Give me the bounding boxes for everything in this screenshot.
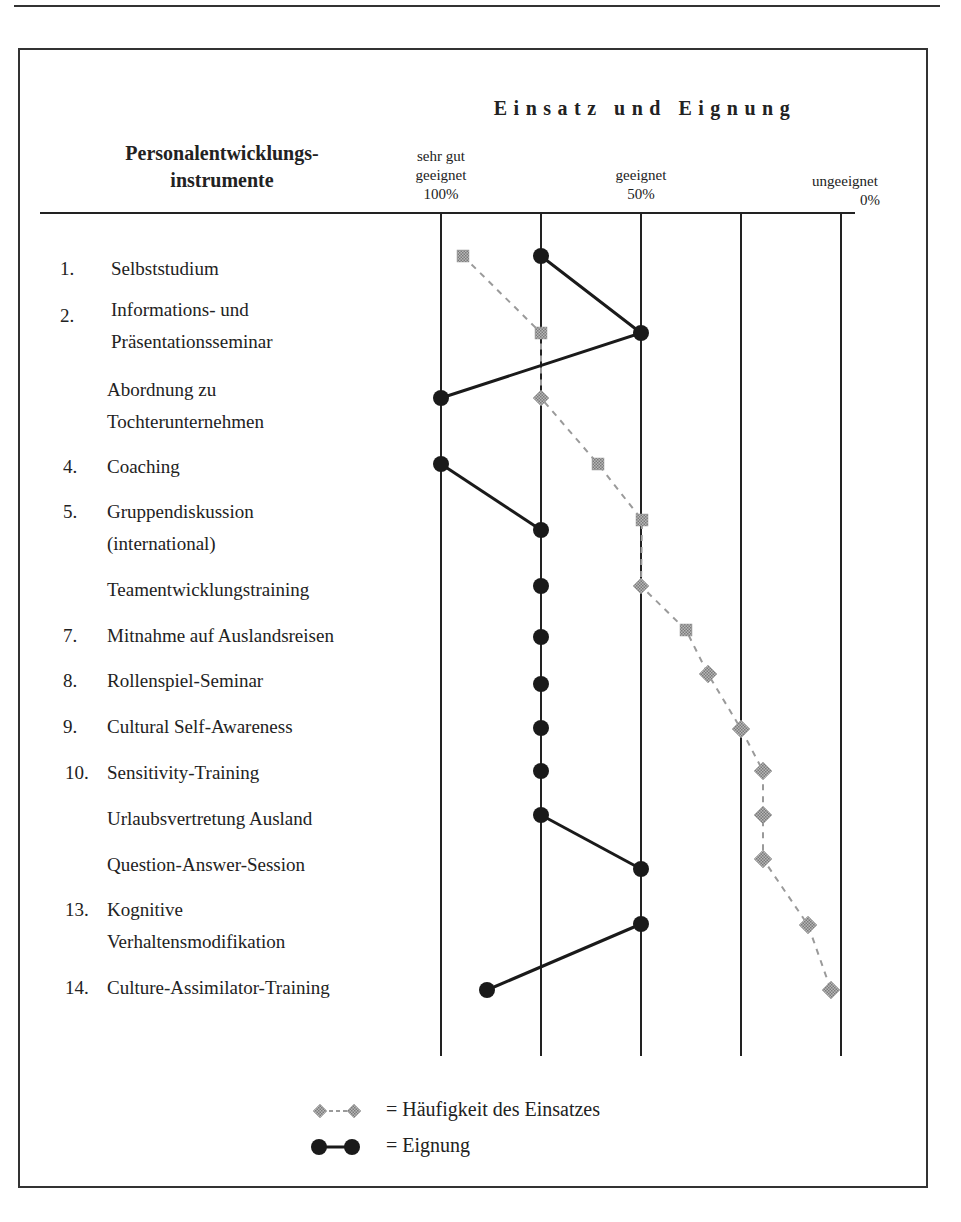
frequency-marker-icon	[799, 916, 817, 934]
suitability-marker-icon	[533, 763, 549, 779]
suitability-marker-icon	[533, 248, 549, 264]
frequency-marker-icon	[754, 806, 772, 824]
suitability-marker-icon	[533, 676, 549, 692]
legend-diamond-icon	[347, 1104, 361, 1118]
suitability-marker-icon	[533, 522, 549, 538]
legend-frequency-label: = Häufigkeit des Einsatzes	[386, 1098, 600, 1121]
suitability-marker-icon	[633, 325, 649, 341]
legend-suitability-symbol	[311, 1139, 360, 1155]
suitability-line-segment	[487, 924, 641, 990]
suitability-marker-icon	[633, 861, 649, 877]
frequency-marker-icon	[822, 981, 840, 999]
suitability-marker-icon	[533, 720, 549, 736]
suitability-marker-icon	[533, 629, 549, 645]
suitability-marker-icon	[433, 390, 449, 406]
frequency-marker-icon	[699, 665, 717, 683]
suitability-marker-icon	[433, 456, 449, 472]
legend-suitability-label: = Eignung	[386, 1134, 470, 1157]
suitability-marker-icon	[479, 982, 495, 998]
legend-circle-icon	[344, 1139, 360, 1155]
series-frequency	[457, 250, 840, 999]
suitability-marker-icon	[533, 578, 549, 594]
frequency-marker-icon	[535, 327, 547, 339]
suitability-line-segment	[441, 464, 541, 530]
suitability-marker-icon	[633, 916, 649, 932]
frequency-marker-icon	[754, 850, 772, 868]
legend-diamond-icon	[313, 1104, 327, 1118]
frequency-marker-icon	[732, 720, 750, 738]
suitability-line-segment	[541, 815, 641, 869]
plot-area	[0, 0, 961, 1222]
suitability-marker-icon	[533, 807, 549, 823]
frequency-marker-icon	[633, 578, 649, 594]
frequency-marker-icon	[754, 762, 772, 780]
frequency-line	[463, 256, 831, 990]
frequency-marker-icon	[636, 514, 648, 526]
frequency-marker-icon	[592, 458, 604, 470]
legend-frequency-symbol	[313, 1104, 361, 1118]
frequency-marker-icon	[457, 250, 469, 262]
legend-circle-icon	[311, 1139, 327, 1155]
frequency-marker-icon	[680, 624, 692, 636]
